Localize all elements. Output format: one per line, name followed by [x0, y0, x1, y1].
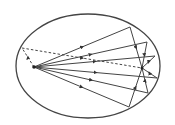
focus-left [32, 65, 36, 69]
dashed-incident-ray [22, 48, 34, 67]
ellipse-reflection-diagram [0, 0, 175, 125]
focus-right [141, 67, 144, 70]
